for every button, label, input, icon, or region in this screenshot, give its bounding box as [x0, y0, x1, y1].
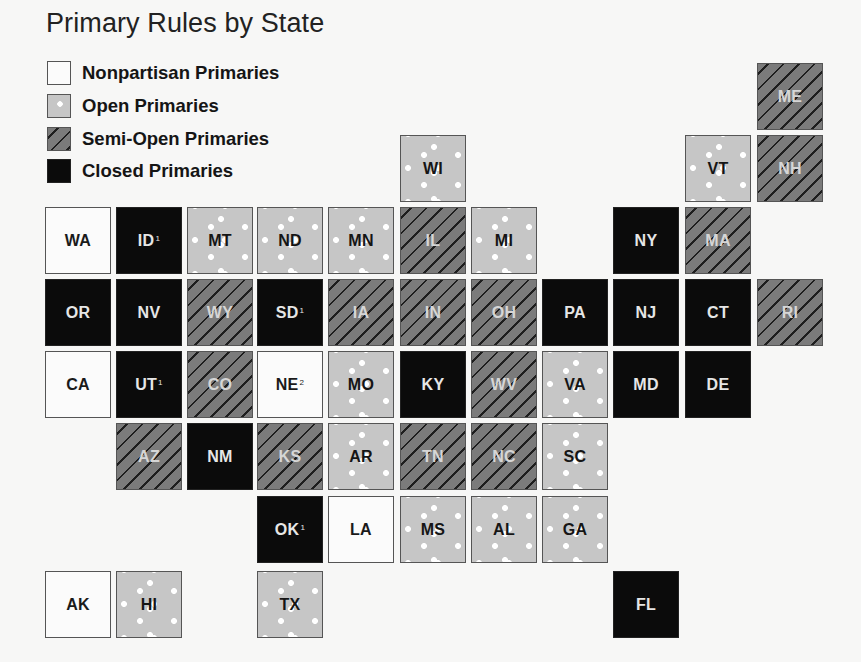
- state-label: LA: [350, 521, 372, 539]
- state-tile-ar: AR: [328, 423, 394, 490]
- state-label: OH: [492, 304, 517, 322]
- state-label: WI: [423, 160, 443, 178]
- state-tile-map: MEWIVTNHWAID1MTNDMNILMINYMAORNVWYSD1IAIN…: [0, 0, 861, 662]
- state-tile-ny: NY: [613, 207, 679, 274]
- state-tile-ma: MA: [685, 207, 751, 274]
- state-tile-me: ME: [757, 63, 823, 130]
- footnote-marker: 1: [300, 306, 305, 315]
- state-label: VT: [707, 160, 728, 178]
- state-label: WA: [65, 232, 91, 250]
- state-tile-ca: CA: [45, 351, 111, 418]
- state-tile-de: DE: [685, 351, 751, 418]
- state-tile-wy: WY: [187, 279, 253, 346]
- state-label: NE: [276, 376, 299, 394]
- state-label: NJ: [635, 304, 656, 322]
- state-label: CO: [208, 376, 233, 394]
- state-label: WV: [491, 376, 517, 394]
- state-tile-va: VA: [542, 351, 608, 418]
- state-label: CA: [66, 376, 90, 394]
- footnote-marker: 1: [300, 523, 305, 532]
- footnote-marker: 2: [300, 378, 305, 387]
- state-tile-ne: NE2: [257, 351, 323, 418]
- state-tile-oh: OH: [471, 279, 537, 346]
- state-label: RI: [782, 304, 799, 322]
- state-tile-mo: MO: [328, 351, 394, 418]
- state-tile-nv: NV: [116, 279, 182, 346]
- state-tile-la: LA: [328, 496, 394, 563]
- state-tile-nm: NM: [187, 423, 253, 490]
- state-label: AK: [66, 596, 90, 614]
- state-tile-tx: TX: [257, 571, 323, 638]
- state-label: MS: [421, 521, 446, 539]
- state-tile-hi: HI: [116, 571, 182, 638]
- state-label: MN: [348, 232, 373, 250]
- state-label: GA: [563, 521, 588, 539]
- state-label: MD: [633, 376, 658, 394]
- state-label: OK: [275, 521, 300, 539]
- state-label: TN: [422, 448, 444, 466]
- state-tile-co: CO: [187, 351, 253, 418]
- state-label: AZ: [138, 448, 160, 466]
- state-label: SD: [276, 304, 299, 322]
- state-label: IA: [353, 304, 370, 322]
- state-label: ND: [278, 232, 302, 250]
- state-label: HI: [141, 596, 158, 614]
- state-tile-ky: KY: [400, 351, 466, 418]
- state-tile-md: MD: [613, 351, 679, 418]
- state-label: WY: [207, 304, 233, 322]
- state-tile-wi: WI: [400, 135, 466, 202]
- state-label: KS: [279, 448, 302, 466]
- state-tile-wa: WA: [45, 207, 111, 274]
- state-tile-ri: RI: [757, 279, 823, 346]
- state-tile-in: IN: [400, 279, 466, 346]
- state-tile-wv: WV: [471, 351, 537, 418]
- state-label: ID: [138, 232, 155, 250]
- state-label: CT: [707, 304, 729, 322]
- state-label: IN: [425, 304, 442, 322]
- state-tile-sd: SD1: [257, 279, 323, 346]
- footnote-marker: 1: [155, 234, 160, 243]
- state-label: AL: [493, 521, 515, 539]
- state-tile-ut: UT1: [116, 351, 182, 418]
- state-tile-pa: PA: [542, 279, 608, 346]
- state-tile-sc: SC: [542, 423, 608, 490]
- state-label: NC: [492, 448, 516, 466]
- footnote-marker: 1: [158, 378, 163, 387]
- state-label: OR: [66, 304, 91, 322]
- state-tile-nh: NH: [757, 135, 823, 202]
- state-tile-nj: NJ: [613, 279, 679, 346]
- state-label: MA: [705, 232, 730, 250]
- state-label: IL: [426, 232, 441, 250]
- state-label: DE: [707, 376, 730, 394]
- state-tile-ia: IA: [328, 279, 394, 346]
- state-tile-mi: MI: [471, 207, 537, 274]
- state-tile-mt: MT: [187, 207, 253, 274]
- state-label: AR: [349, 448, 373, 466]
- state-tile-ok: OK1: [257, 496, 323, 563]
- state-tile-nd: ND: [257, 207, 323, 274]
- state-tile-ak: AK: [45, 571, 111, 638]
- state-label: SC: [564, 448, 587, 466]
- state-label: PA: [564, 304, 586, 322]
- state-label: KY: [422, 376, 445, 394]
- state-label: NM: [207, 448, 232, 466]
- state-label: NV: [138, 304, 161, 322]
- state-tile-il: IL: [400, 207, 466, 274]
- state-tile-vt: VT: [685, 135, 751, 202]
- state-label: MT: [208, 232, 232, 250]
- state-label: ME: [778, 88, 803, 106]
- state-label: UT: [135, 376, 157, 394]
- state-tile-az: AZ: [116, 423, 182, 490]
- state-tile-mn: MN: [328, 207, 394, 274]
- state-label: MI: [495, 232, 513, 250]
- state-label: TX: [279, 596, 300, 614]
- state-tile-fl: FL: [613, 571, 679, 638]
- state-label: NH: [778, 160, 802, 178]
- state-tile-ks: KS: [257, 423, 323, 490]
- state-tile-tn: TN: [400, 423, 466, 490]
- state-tile-or: OR: [45, 279, 111, 346]
- state-tile-id: ID1: [116, 207, 182, 274]
- state-label: MO: [348, 376, 374, 394]
- state-tile-nc: NC: [471, 423, 537, 490]
- state-tile-ms: MS: [400, 496, 466, 563]
